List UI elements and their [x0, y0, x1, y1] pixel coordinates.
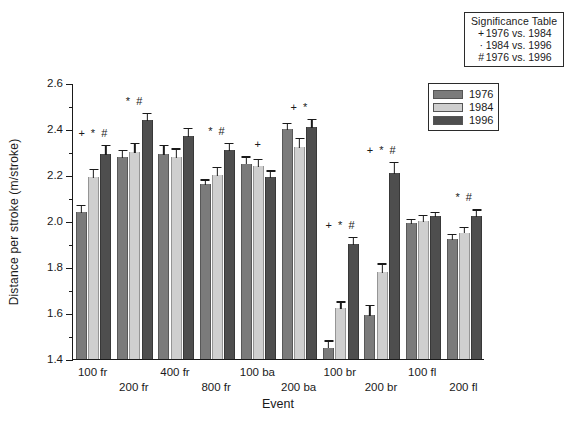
y-axis-tick: [66, 360, 73, 361]
error-bar: [460, 227, 469, 234]
error-bar: [472, 209, 481, 217]
x-axis-tick-label: 100 fl: [408, 366, 436, 378]
y-axis-tick: [66, 130, 73, 131]
bar-group: * #: [73, 84, 485, 359]
plot-area: 2.62.42.22.01.81.61.4+ * #* #* #++ *+ * …: [73, 84, 484, 359]
x-axis-tick-label: 100 fr: [78, 366, 107, 378]
significance-table: Significance Table +1976 vs. 1984 ·1984 …: [464, 12, 564, 67]
significance-marker: * #: [455, 192, 473, 203]
x-axis-tick-label: 800 fr: [201, 381, 230, 393]
significance-text: 1976 vs. 1996: [486, 51, 552, 63]
x-axis-tick-label: 200 ba: [281, 381, 316, 393]
y-axis-tick: [66, 84, 73, 85]
x-axis-tick-label: 200 fl: [449, 381, 477, 393]
significance-row: ·1984 vs. 1996: [471, 39, 557, 51]
x-axis-tick-label: 400 fr: [160, 366, 189, 378]
y-axis-tick-label: 1.6: [47, 308, 63, 320]
y-axis-tick-label: 1.8: [47, 262, 63, 274]
significance-table-title: Significance Table: [471, 15, 557, 27]
y-axis-title-text: Distance per stroke (m/stroke): [7, 139, 21, 306]
y-axis-tick-label: 2.2: [47, 170, 63, 182]
bar: [459, 233, 470, 360]
y-axis-tick: [66, 268, 73, 269]
x-axis-title: Event: [72, 397, 484, 411]
bar: [447, 239, 458, 359]
significance-text: 1984 vs. 1996: [486, 39, 552, 51]
x-axis-tick-label: 100 ba: [240, 366, 275, 378]
y-axis-tick-label: 2.4: [47, 124, 63, 136]
y-axis-title: Distance per stroke (m/stroke): [6, 84, 22, 360]
error-bar: [448, 234, 457, 241]
x-axis-tick-label: 200 fr: [119, 381, 148, 393]
plot-frame: 2.62.42.22.01.81.61.4+ * #* #* #++ *+ * …: [72, 84, 484, 360]
x-axis-tick-label: 100 br: [323, 366, 356, 378]
significance-symbol: #: [477, 51, 486, 63]
significance-text: 1976 vs. 1984: [486, 27, 552, 39]
significance-row: #1976 vs. 1996: [471, 51, 557, 63]
y-axis-tick-label: 1.4: [47, 354, 63, 366]
significance-row: +1976 vs. 1984: [471, 27, 557, 39]
x-axis-tick-label: 200 br: [365, 381, 398, 393]
y-axis-tick-label: 2.6: [47, 78, 63, 90]
y-axis-tick-label: 2.0: [47, 216, 63, 228]
significance-symbol: +: [477, 27, 486, 39]
significance-symbol: ·: [477, 39, 486, 51]
bar: [471, 216, 482, 359]
y-axis-tick: [66, 222, 73, 223]
y-axis-tick: [66, 314, 73, 315]
y-axis-tick: [66, 176, 73, 177]
chart-figure: Significance Table +1976 vs. 1984 ·1984 …: [0, 0, 585, 424]
